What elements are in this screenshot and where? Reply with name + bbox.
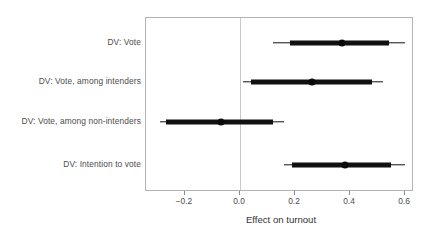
point-estimate-dot — [217, 119, 224, 126]
point-estimate-dot — [308, 79, 315, 86]
point-estimate-dot — [338, 40, 345, 47]
estimate-row — [146, 34, 412, 52]
x-axis-tick — [349, 191, 350, 195]
x-axis-tick — [294, 191, 295, 195]
x-axis-tick-label: 0.2 — [288, 196, 300, 206]
plot-panel — [145, 17, 413, 191]
x-axis-tick — [404, 191, 405, 195]
x-axis-tick-label: 0.6 — [398, 196, 410, 206]
x-axis-title: Effect on turnout — [0, 214, 428, 225]
y-axis-label: DV: Intention to vote — [63, 159, 141, 169]
y-axis-label: DV: Vote, among intenders — [39, 76, 141, 86]
x-axis-tick-label: 0.4 — [343, 196, 355, 206]
y-axis-label: DV: Vote, among non-intenders — [22, 116, 141, 126]
x-axis-tick-label: 0.0 — [233, 196, 245, 206]
point-estimate-dot — [341, 162, 348, 169]
x-axis-tick — [239, 191, 240, 195]
estimate-row — [146, 113, 412, 131]
x-axis-tick — [184, 191, 185, 195]
y-axis-label: DV: Vote — [107, 37, 141, 47]
coefficient-plot-figure: DV: VoteDV: Vote, among intendersDV: Vot… — [0, 0, 428, 237]
estimate-row — [146, 73, 412, 91]
estimate-row — [146, 156, 412, 174]
x-axis-title-text: Effect on turnout — [246, 214, 316, 225]
x-axis-tick-label: −0.2 — [176, 196, 193, 206]
